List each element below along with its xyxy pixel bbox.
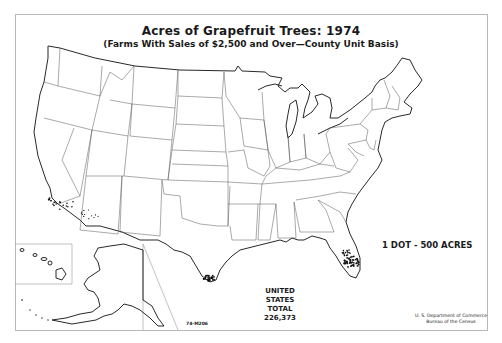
dot (346, 255, 348, 257)
dot (352, 259, 354, 261)
total-label-line1: UNITED STATES (250, 287, 310, 305)
dot-legend: 1 DOT - 500 ACRES (382, 240, 472, 250)
dot (72, 201, 74, 203)
alaska (52, 244, 164, 326)
us-outline (34, 46, 422, 282)
credit: U. S. Department of Commerce Bureau of t… (408, 313, 494, 325)
dot (91, 215, 92, 216)
dot (84, 214, 85, 215)
dot (347, 252, 349, 254)
dot (66, 205, 68, 207)
dot (356, 258, 358, 260)
lake-superior-shore (258, 84, 282, 90)
dot (50, 200, 52, 202)
dot (357, 260, 359, 262)
dot (59, 208, 61, 210)
dot (346, 261, 348, 263)
dot (212, 279, 214, 281)
dot (88, 209, 89, 210)
dot (353, 256, 355, 258)
dot (59, 201, 61, 203)
dot (353, 262, 355, 264)
dot (343, 262, 345, 264)
map-title: Acres of Grapefruit Trees: 1974 (0, 24, 502, 38)
dot (342, 252, 344, 254)
dot (81, 212, 82, 213)
dot (66, 203, 68, 205)
dot (83, 210, 84, 211)
dot (98, 216, 99, 217)
dot (207, 275, 209, 277)
dot (349, 253, 351, 255)
dot (55, 203, 57, 205)
dots-florida (342, 249, 360, 267)
us-total: UNITED STATES TOTAL 226,373 (250, 287, 310, 323)
dot (356, 262, 358, 264)
alaska-inset-frame (15, 244, 178, 330)
dot (353, 265, 355, 267)
dots-arizona (81, 209, 99, 219)
dot (82, 214, 83, 215)
dot (209, 280, 211, 282)
dot (347, 266, 349, 268)
dot (347, 250, 349, 252)
dot (344, 255, 346, 257)
dot (344, 259, 346, 261)
dot (53, 202, 55, 204)
dot (81, 213, 82, 214)
state-borders (44, 48, 400, 240)
dot (357, 262, 359, 264)
map-code: 74-M206 (186, 321, 208, 326)
dot (351, 262, 353, 264)
dot (213, 276, 215, 278)
dot (53, 205, 55, 207)
lake-michigan (286, 100, 298, 138)
dot (205, 275, 207, 277)
dot (88, 218, 89, 219)
aleutian-islands (21, 299, 49, 320)
hawaii (20, 249, 66, 281)
map-subtitle: (Farms With Sales of $2,500 and Over—Cou… (0, 39, 502, 49)
dots-california (48, 197, 74, 210)
total-value: 226,373 (250, 314, 310, 323)
dot (203, 278, 205, 280)
dot (348, 249, 350, 251)
dot (350, 259, 352, 261)
credit-line2: Bureau of the Census (408, 319, 494, 325)
dot (62, 204, 64, 206)
dot (357, 265, 359, 267)
dot (351, 265, 353, 267)
dot (83, 216, 84, 217)
dot (351, 256, 353, 258)
dot (343, 250, 345, 252)
dot (209, 277, 211, 279)
dot (48, 198, 50, 200)
dot (346, 257, 348, 259)
dot (67, 206, 69, 208)
dot (95, 214, 96, 215)
dot (345, 252, 347, 254)
dot (204, 278, 206, 280)
dot (93, 217, 94, 218)
total-label-line2: TOTAL (250, 305, 310, 314)
dot (71, 206, 73, 208)
